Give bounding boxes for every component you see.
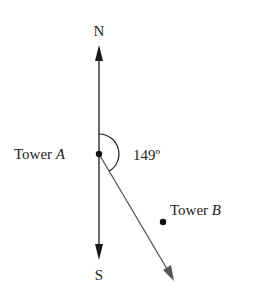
tower-a-label: Tower A: [14, 146, 66, 162]
bearing-line: [99, 154, 170, 274]
north-arrowhead-icon: [95, 45, 103, 61]
north-label: N: [94, 23, 105, 39]
angle-label: 149º: [133, 147, 161, 163]
tower-a-point: [96, 151, 102, 157]
diagram-svg: N S Tower A 149º Tower B: [0, 0, 253, 295]
south-label: S: [95, 267, 103, 283]
bearing-diagram: N S Tower A 149º Tower B: [0, 0, 253, 295]
south-arrowhead-icon: [95, 244, 103, 260]
angle-arc: [99, 134, 119, 171]
bearing-arrowhead-icon: [163, 265, 174, 281]
tower-b-label: Tower B: [170, 202, 221, 218]
tower-b-point: [160, 219, 166, 225]
